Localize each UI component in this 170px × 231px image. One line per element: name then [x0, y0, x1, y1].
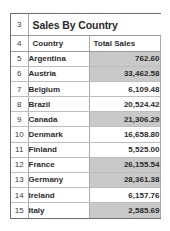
- spreadsheet-grid: 3 Sales By Country 4 Country Total Sales…: [11, 14, 161, 218]
- table-row: 15Italy2,585.69: [11, 203, 160, 218]
- table-row: 8Brazil20,524.42: [11, 97, 160, 112]
- row-header-9[interactable]: 9: [11, 112, 28, 127]
- cell-total-sales[interactable]: 20,524.42: [89, 97, 160, 112]
- table-row: 11Finland5,525.00: [11, 142, 160, 157]
- table-row: 12France26,155.54: [11, 157, 160, 172]
- row-header-15[interactable]: 15: [11, 203, 28, 218]
- cell-total-sales[interactable]: 6,109.48: [89, 81, 160, 96]
- row-header-12[interactable]: 12: [11, 157, 28, 172]
- cell-country[interactable]: Belgium: [28, 81, 89, 96]
- cell-total-sales[interactable]: 5,525.00: [89, 142, 160, 157]
- table-row: 9Canada21,306.29: [11, 112, 160, 127]
- cell-total-sales[interactable]: 16,658.80: [89, 127, 160, 142]
- table-row: 14Ireland6,157.76: [11, 188, 160, 203]
- table-row: 7Belgium6,109.48: [11, 81, 160, 96]
- cell-country[interactable]: Finland: [28, 142, 89, 157]
- row-header-4[interactable]: 4: [11, 36, 28, 51]
- cell-total-sales[interactable]: 21,306.29: [89, 112, 160, 127]
- cell-country[interactable]: Brazil: [28, 97, 89, 112]
- row-header-7[interactable]: 7: [11, 81, 28, 96]
- row-header-5[interactable]: 5: [11, 51, 28, 66]
- row-header-13[interactable]: 13: [11, 172, 28, 187]
- cell-country[interactable]: Argentina: [28, 51, 89, 66]
- cell-total-sales[interactable]: 28,361.38: [89, 172, 160, 187]
- column-header-country[interactable]: Country: [28, 36, 89, 51]
- cell-total-sales[interactable]: 26,155.54: [89, 157, 160, 172]
- spreadsheet-frame: 3 Sales By Country 4 Country Total Sales…: [10, 13, 161, 219]
- cell-total-sales[interactable]: 33,462.58: [89, 66, 160, 81]
- cell-country[interactable]: Denmark: [28, 127, 89, 142]
- title-row: 3 Sales By Country: [11, 14, 160, 36]
- grid-body: 3 Sales By Country 4 Country Total Sales…: [11, 14, 160, 218]
- table-row: 5Argentina762.60: [11, 51, 160, 66]
- table-row: 6Austria33,462.58: [11, 66, 160, 81]
- row-header-14[interactable]: 14: [11, 188, 28, 203]
- cell-country[interactable]: Germany: [28, 172, 89, 187]
- cell-country[interactable]: Austria: [28, 66, 89, 81]
- table-row: 13Germany28,361.38: [11, 172, 160, 187]
- row-header-11[interactable]: 11: [11, 142, 28, 157]
- row-header-8[interactable]: 8: [11, 97, 28, 112]
- cell-total-sales[interactable]: 762.60: [89, 51, 160, 66]
- column-header-row: 4 Country Total Sales: [11, 36, 160, 51]
- column-header-total-sales[interactable]: Total Sales: [89, 36, 160, 51]
- cell-total-sales[interactable]: 2,585.69: [89, 203, 160, 218]
- cell-country[interactable]: Ireland: [28, 188, 89, 203]
- row-header-10[interactable]: 10: [11, 127, 28, 142]
- sheet-title[interactable]: Sales By Country: [28, 14, 160, 36]
- row-header-3[interactable]: 3: [11, 14, 28, 36]
- row-header-6[interactable]: 6: [11, 66, 28, 81]
- cell-total-sales[interactable]: 6,157.76: [89, 188, 160, 203]
- table-row: 10Denmark16,658.80: [11, 127, 160, 142]
- cell-country[interactable]: Canada: [28, 112, 89, 127]
- cell-country[interactable]: France: [28, 157, 89, 172]
- cell-country[interactable]: Italy: [28, 203, 89, 218]
